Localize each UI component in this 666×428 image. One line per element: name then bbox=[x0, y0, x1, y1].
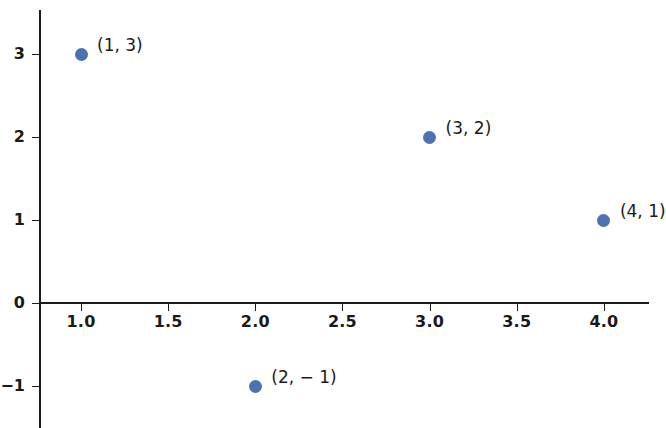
x-tick-mark bbox=[604, 304, 605, 311]
y-tick-mark bbox=[32, 386, 39, 387]
y-axis-line bbox=[39, 10, 41, 428]
x-tick-label: 1.0 bbox=[51, 312, 111, 331]
data-point-label: (3, 2) bbox=[446, 120, 492, 137]
y-tick-label: 0 bbox=[0, 295, 32, 311]
x-tick-label: 3.5 bbox=[487, 312, 547, 331]
x-tick-mark bbox=[81, 304, 82, 311]
data-point-label: (1, 3) bbox=[97, 37, 143, 54]
x-tick-mark bbox=[168, 304, 169, 311]
x-tick-label: 2.0 bbox=[225, 312, 285, 331]
x-tick-mark bbox=[517, 304, 518, 311]
x-tick-label: 3.0 bbox=[400, 312, 460, 331]
x-axis-line bbox=[39, 302, 649, 304]
x-tick-label: 2.5 bbox=[312, 312, 372, 331]
data-point-marker bbox=[597, 214, 610, 227]
y-tick-label: 1 bbox=[0, 212, 32, 228]
y-tick-mark bbox=[32, 220, 39, 221]
y-tick-mark bbox=[32, 137, 39, 138]
data-point-marker bbox=[75, 48, 88, 61]
x-tick-mark bbox=[255, 304, 256, 311]
x-tick-mark bbox=[430, 304, 431, 311]
x-tick-label: 4.0 bbox=[574, 312, 634, 331]
data-point-label: (2, − 1) bbox=[271, 369, 336, 386]
x-tick-mark bbox=[342, 304, 343, 311]
x-tick-label: 1.5 bbox=[138, 312, 198, 331]
y-tick-mark bbox=[32, 54, 39, 55]
y-tick-label: 3 bbox=[0, 46, 32, 62]
y-tick-label: −1 bbox=[0, 378, 32, 394]
y-tick-label: 2 bbox=[0, 129, 32, 145]
data-point-label: (4, 1) bbox=[620, 203, 666, 220]
data-point-marker bbox=[249, 380, 262, 393]
data-point-marker bbox=[423, 131, 436, 144]
y-tick-mark bbox=[32, 303, 39, 304]
